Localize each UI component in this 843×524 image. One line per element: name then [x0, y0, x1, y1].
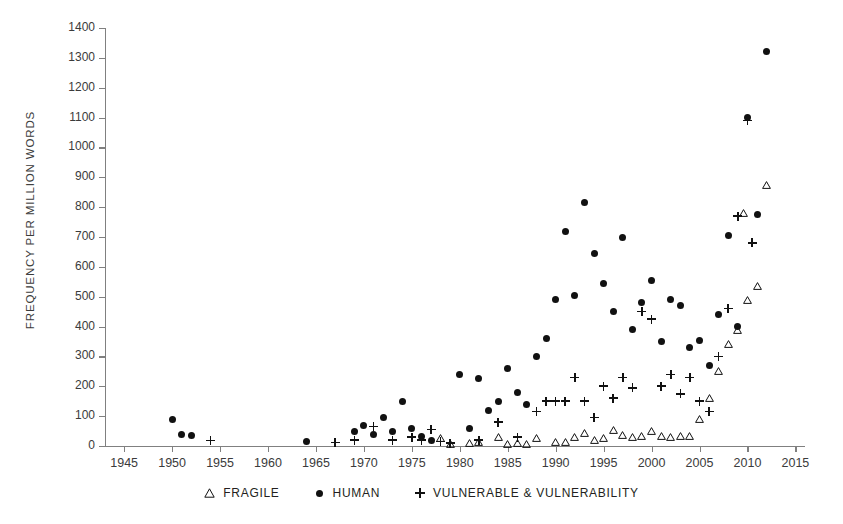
y-tick-label: 0: [55, 438, 95, 452]
data-point-human: [351, 428, 358, 435]
data-point-human: [408, 425, 415, 432]
data-point-vulnerable: [676, 389, 685, 398]
y-tick-label: 1000: [55, 139, 95, 153]
data-point-human: [610, 308, 617, 315]
plus-icon: [414, 487, 426, 499]
y-tick-label: 500: [55, 289, 95, 303]
legend-item[interactable]: FRAGILE: [204, 486, 279, 500]
data-point-vulnerable: [637, 307, 646, 316]
y-tick: [99, 88, 105, 89]
data-point-human: [495, 398, 502, 405]
y-tick-label: 1400: [55, 20, 95, 34]
y-axis-label: FREQUENCY PER MILLION WORDS: [24, 0, 42, 440]
data-point-vulnerable: [561, 397, 570, 406]
data-point-human: [686, 344, 693, 351]
data-point-human: [178, 431, 185, 438]
data-point-human: [370, 431, 377, 438]
data-point-human: [303, 438, 310, 445]
data-point-vulnerable: [647, 315, 656, 324]
x-tick-label: 2000: [629, 456, 675, 470]
data-point-human: [571, 292, 578, 299]
x-tick-label: 1985: [485, 456, 531, 470]
data-point-vulnerable: [206, 436, 215, 445]
data-point-human: [658, 338, 665, 345]
x-tick: [316, 446, 317, 452]
x-tick-label: 1970: [341, 456, 387, 470]
y-tick: [99, 58, 105, 59]
data-point-human: [677, 302, 684, 309]
data-point-human: [715, 311, 722, 318]
x-tick-label: 1965: [293, 456, 339, 470]
y-tick-label: 1300: [55, 50, 95, 64]
data-point-vulnerable: [724, 304, 733, 313]
y-tick: [99, 327, 105, 328]
legend-item[interactable]: VULNERABLE & VULNERABILITY: [414, 486, 639, 500]
y-tick: [99, 297, 105, 298]
data-point-vulnerable: [590, 413, 599, 422]
y-tick: [99, 416, 105, 417]
data-point-vulnerable: [570, 373, 579, 382]
data-point-human: [399, 398, 406, 405]
data-point-human: [428, 437, 435, 444]
x-tick: [172, 446, 173, 452]
x-tick-label: 1950: [149, 456, 195, 470]
y-tick: [99, 147, 105, 148]
data-point-vulnerable: [695, 397, 704, 406]
y-tick-label: 1200: [55, 80, 95, 94]
data-point-human: [475, 375, 482, 382]
data-point-human: [360, 422, 367, 429]
data-point-vulnerable: [551, 397, 560, 406]
data-point-human: [696, 337, 703, 344]
y-tick-label: 600: [55, 259, 95, 273]
y-tick: [99, 207, 105, 208]
data-point-vulnerable: [436, 437, 445, 446]
y-tick: [99, 356, 105, 357]
data-point-human: [380, 414, 387, 421]
data-point-human: [543, 335, 550, 342]
x-tick: [604, 446, 605, 452]
data-point-vulnerable: [542, 397, 551, 406]
plot-area: 0100200300400500600700800900100011001200…: [105, 28, 805, 446]
x-tick-label: 1990: [533, 456, 579, 470]
data-point-human: [667, 296, 674, 303]
legend-label: VULNERABLE & VULNERABILITY: [433, 486, 639, 500]
x-tick-label: 1945: [101, 456, 147, 470]
data-point-human: [648, 277, 655, 284]
data-point-human: [600, 280, 607, 287]
legend-label: HUMAN: [333, 486, 381, 500]
data-point-human: [188, 432, 195, 439]
data-point-human: [591, 250, 598, 257]
data-point-vulnerable: [609, 394, 618, 403]
data-point-vulnerable: [446, 439, 455, 448]
y-tick-label: 700: [55, 229, 95, 243]
data-point-vulnerable: [743, 116, 752, 125]
x-tick: [652, 446, 653, 452]
x-tick: [364, 446, 365, 452]
y-tick: [99, 237, 105, 238]
x-tick: [412, 446, 413, 452]
y-tick: [99, 267, 105, 268]
x-tick: [795, 446, 796, 452]
data-point-human: [581, 199, 588, 206]
data-point-vulnerable: [733, 212, 742, 221]
x-tick: [220, 446, 221, 452]
data-point-vulnerable: [580, 397, 589, 406]
y-tick-label: 200: [55, 378, 95, 392]
data-point-vulnerable: [331, 438, 340, 447]
data-point-human: [456, 371, 463, 378]
legend-item[interactable]: HUMAN: [314, 486, 381, 500]
data-point-human: [619, 234, 626, 241]
data-point-vulnerable: [369, 422, 378, 431]
data-point-vulnerable: [748, 238, 757, 247]
chart-legend: FRAGILEHUMANVULNERABLE & VULNERABILITY: [0, 486, 843, 500]
data-point-vulnerable: [705, 407, 714, 416]
y-tick: [99, 386, 105, 387]
data-point-vulnerable: [666, 370, 675, 379]
x-tick-label: 1975: [389, 456, 435, 470]
x-tick: [460, 446, 461, 452]
y-tick-label: 1100: [55, 110, 95, 124]
data-point-vulnerable: [474, 436, 483, 445]
y-tick-label: 800: [55, 199, 95, 213]
y-tick: [99, 118, 105, 119]
data-point-human: [533, 353, 540, 360]
